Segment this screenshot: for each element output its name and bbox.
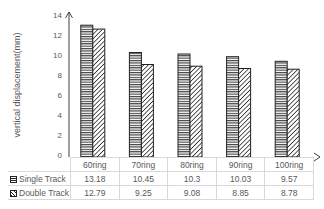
table-cell: 9.08 — [168, 186, 217, 200]
legend-key-diagonal-icon — [10, 190, 17, 197]
bar-double-track — [287, 69, 299, 157]
table-cell: 12.79 — [71, 186, 120, 200]
table-cell: 9.57 — [265, 172, 314, 186]
bars-group — [81, 25, 299, 157]
bar-single-track — [129, 53, 141, 158]
table-cell: 13.18 — [71, 172, 120, 186]
y-tick-label: 6 — [48, 91, 62, 100]
y-axis-label: vertical displacement(mm) — [12, 30, 22, 140]
category-label: 60ring — [71, 158, 120, 172]
bar-single-track — [275, 61, 287, 157]
legend-label: Double Track — [19, 188, 69, 198]
bar-double-track — [93, 29, 105, 157]
bar-single-track — [81, 25, 93, 157]
data-table-header-row: 60ring 70ring 80ring 90ring 100ring — [8, 158, 313, 172]
y-tick-label: 8 — [48, 71, 62, 80]
data-table-row-single: Single Track 13.18 10.45 10.3 10.03 9.57 — [8, 172, 313, 186]
table-cell: 10.45 — [119, 172, 168, 186]
bar-double-track — [141, 65, 153, 158]
legend-key-horizontal-icon — [10, 176, 17, 183]
table-cell: 8.85 — [216, 186, 265, 200]
y-tick-label: 14 — [48, 11, 62, 20]
table-cell: 10.03 — [216, 172, 265, 186]
y-tick-label: 2 — [48, 131, 62, 140]
category-label: 100ring — [265, 158, 314, 172]
bar-chart: vertical displacement(mm) 02468101214 60… — [0, 0, 324, 209]
y-tick-label: 4 — [48, 111, 62, 120]
data-table: 60ring 70ring 80ring 90ring 100ring Sing… — [8, 157, 314, 200]
bar-single-track — [178, 54, 190, 157]
table-cell: 10.3 — [168, 172, 217, 186]
category-label: 90ring — [216, 158, 265, 172]
bar-single-track — [227, 57, 239, 157]
y-tick-label: 12 — [48, 31, 62, 40]
table-cell: 8.78 — [265, 186, 314, 200]
category-label: 80ring — [168, 158, 217, 172]
x-axis-arrow-icon — [314, 153, 320, 161]
data-table-row-double: Double Track 12.79 9.25 9.08 8.85 8.78 — [8, 186, 313, 200]
bar-double-track — [239, 69, 251, 158]
category-label: 70ring — [119, 158, 168, 172]
bar-double-track — [190, 66, 202, 157]
legend-label: Single Track — [19, 174, 66, 184]
y-tick-label: 10 — [48, 51, 62, 60]
table-cell: 9.25 — [119, 186, 168, 200]
